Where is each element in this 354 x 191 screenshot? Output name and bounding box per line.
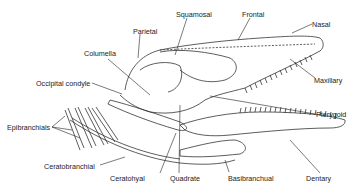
label-parietal: Parietal: [133, 28, 157, 35]
label-ceratobranchial: Ceratobranchial: [44, 163, 95, 170]
label-occipital-condyle: Occipital condyle: [36, 80, 90, 87]
label-pterygoid: Pterygoid: [316, 111, 346, 118]
label-basibranchial: Basibranchual: [228, 175, 274, 182]
label-quadrate: Quadrate: [170, 175, 200, 182]
label-nasal: Nasal: [312, 21, 330, 28]
label-columella: Columella: [84, 50, 116, 57]
label-ceratohyal: Ceratohyal: [110, 175, 145, 182]
label-maxillary: Maxillary: [314, 77, 342, 84]
skull-diagram: Squamosal Frontal Nasal Parietal Columel…: [0, 0, 354, 191]
label-epibranchials: Epibranchials: [7, 124, 50, 131]
label-squamosal: Squamosal: [176, 11, 212, 18]
label-dentary: Dentary: [306, 175, 331, 182]
label-frontal: Frontal: [242, 11, 264, 18]
